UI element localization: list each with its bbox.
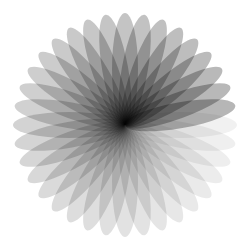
petal-rosette: [0, 0, 250, 251]
